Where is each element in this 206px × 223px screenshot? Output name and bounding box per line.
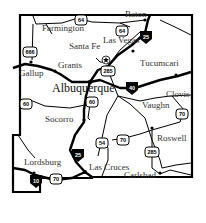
new-mexico-road-map: 64 64 25 666 285 40 60 60	[0, 0, 206, 223]
svg-text:64: 64	[119, 28, 126, 34]
svg-text:285: 285	[103, 68, 112, 74]
city-label-raton: Raton	[125, 10, 147, 19]
svg-text:70: 70	[53, 176, 59, 182]
svg-text:60: 60	[89, 99, 95, 105]
interstate-shield: 25	[140, 31, 152, 44]
us-route-shield: 70	[50, 174, 62, 184]
us-route-shield: 60	[20, 99, 32, 109]
city-label-vaughn: Vaughn	[142, 101, 170, 110]
us-route-shield: 285	[145, 147, 159, 157]
city-label-roswell: Roswell	[157, 134, 187, 143]
svg-text:285: 285	[147, 149, 156, 155]
us-route-shield: 285	[101, 66, 115, 76]
city-label-farmington: Farmington	[42, 24, 84, 33]
city-label-albuquerque: Albuquerque	[52, 82, 115, 94]
city-label-carlsbad: Carlsbad	[124, 171, 156, 180]
city-label-santa-fe: Santa Fe	[69, 42, 100, 51]
us-route-shield: 70	[117, 135, 129, 145]
interstate-shield: 40	[126, 82, 138, 95]
city-label-gallup: Gallup	[19, 69, 44, 78]
us-route-shield: 666	[23, 47, 37, 57]
us-route-shield: 60	[86, 97, 98, 107]
svg-text:60: 60	[23, 101, 29, 107]
city-label-grants: Grants	[58, 61, 82, 70]
major-roads	[13, 15, 191, 180]
svg-text:70: 70	[120, 137, 126, 143]
city-label-las-vegas: Las Vegas	[103, 36, 140, 45]
city-label-socorro: Socorro	[45, 115, 74, 124]
svg-text:25: 25	[143, 34, 149, 40]
us-route-shield: 54	[96, 138, 108, 148]
svg-text:70: 70	[179, 111, 185, 117]
svg-text:54: 54	[99, 140, 106, 146]
svg-text:666: 666	[25, 49, 34, 55]
us-route-shield: 70	[176, 109, 188, 119]
svg-text:10: 10	[33, 178, 39, 184]
svg-text:40: 40	[129, 85, 135, 91]
city-label-tucumcari: Tucumcari	[140, 59, 179, 68]
svg-text:25: 25	[75, 152, 81, 158]
capital-star-icon	[102, 56, 110, 64]
city-label-clovis: Clovis	[166, 90, 190, 99]
city-label-lordsburg: Lordsburg	[24, 158, 61, 167]
